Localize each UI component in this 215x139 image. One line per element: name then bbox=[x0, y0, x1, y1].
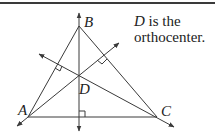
altitude-from-a bbox=[17, 43, 119, 126]
orthocenter-note: D is the orthocenter. bbox=[134, 13, 205, 45]
altitude-from-c bbox=[39, 54, 174, 127]
note-line2: orthocenter. bbox=[134, 29, 205, 45]
note-line1: is the bbox=[145, 13, 181, 29]
right-angle-marker-ac bbox=[79, 111, 85, 117]
note-italic-d: D bbox=[134, 13, 145, 29]
vertex-label-a: A bbox=[17, 102, 28, 118]
vertex-label-b: B bbox=[84, 14, 93, 30]
vertex-label-c: C bbox=[161, 103, 172, 119]
orthocenter-label-d: D bbox=[78, 81, 90, 97]
